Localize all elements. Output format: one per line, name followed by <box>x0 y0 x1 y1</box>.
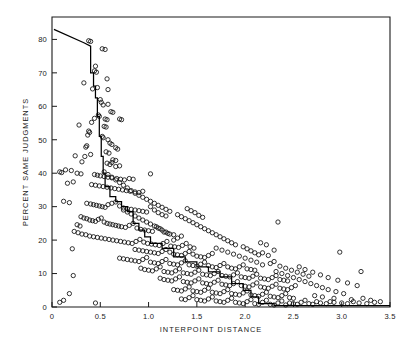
data-point <box>80 160 84 164</box>
x-tick-label: 1.5 <box>191 312 202 321</box>
data-point <box>197 277 201 281</box>
data-point <box>83 154 87 158</box>
data-point <box>268 261 272 265</box>
data-point <box>276 220 280 224</box>
data-point <box>243 256 247 260</box>
data-point <box>280 299 284 303</box>
data-point <box>235 271 239 275</box>
data-point <box>100 205 104 209</box>
x-tick-label: 3.0 <box>336 312 347 321</box>
data-point <box>206 286 210 290</box>
data-point <box>342 291 346 295</box>
data-point <box>255 260 259 264</box>
data-point <box>95 173 99 177</box>
data-point <box>187 249 191 253</box>
data-point <box>116 224 120 228</box>
data-point <box>249 258 253 262</box>
data-point <box>69 168 73 172</box>
x-tick-label: 0.5 <box>95 312 106 321</box>
data-point <box>138 237 142 241</box>
data-point <box>303 267 307 271</box>
data-point <box>177 275 181 279</box>
data-points <box>58 39 383 308</box>
data-point <box>264 243 268 247</box>
data-point <box>88 152 92 156</box>
data-point <box>264 298 268 302</box>
data-point <box>245 289 249 293</box>
data-point <box>216 278 220 282</box>
data-point <box>106 102 110 106</box>
data-point <box>179 234 183 238</box>
data-point <box>105 77 109 81</box>
data-point <box>311 270 315 274</box>
y-axis-title: PERCENT SAME JUDGMENTS <box>21 98 30 226</box>
data-point <box>258 241 262 245</box>
data-point <box>175 213 179 217</box>
data-point <box>63 168 67 172</box>
data-point <box>284 291 288 295</box>
x-tick-label: 1.0 <box>143 312 154 321</box>
data-point <box>355 283 359 287</box>
x-axis-title: INTERPOINT DISTANCE <box>160 325 263 334</box>
data-point <box>255 281 259 285</box>
data-point <box>84 145 88 149</box>
y-tick-label: 60 <box>38 102 47 111</box>
data-point <box>111 158 115 162</box>
data-point <box>201 215 205 219</box>
data-point <box>320 295 324 299</box>
data-point <box>293 283 297 287</box>
data-point <box>106 172 110 176</box>
y-tick-label: 70 <box>38 69 47 78</box>
data-point <box>369 298 373 302</box>
data-point <box>338 250 342 254</box>
data-point <box>89 120 93 124</box>
data-point <box>148 205 152 209</box>
data-point <box>184 241 188 245</box>
data-point <box>289 268 293 272</box>
data-point <box>237 254 241 258</box>
x-tick-label: 3.5 <box>384 312 395 321</box>
data-point <box>67 291 71 295</box>
data-point <box>357 301 361 305</box>
data-point <box>226 250 230 254</box>
data-point <box>320 285 324 289</box>
data-point <box>77 123 81 127</box>
data-point <box>100 47 104 51</box>
data-point <box>92 116 96 120</box>
data-point <box>177 267 181 271</box>
y-axis-ticks: 01020304050607080 <box>38 35 57 312</box>
data-point <box>148 172 152 176</box>
data-point <box>94 203 98 207</box>
data-point <box>165 239 169 243</box>
data-point <box>257 253 261 257</box>
data-point <box>359 269 363 273</box>
x-axis-ticks: 00.51.01.52.02.53.03.5 <box>50 302 396 321</box>
data-point <box>125 186 129 190</box>
data-point <box>274 282 278 286</box>
data-point <box>103 47 107 51</box>
data-point <box>231 252 235 256</box>
data-point <box>191 293 195 297</box>
data-point <box>93 301 97 305</box>
data-point <box>108 222 112 226</box>
data-point <box>164 214 168 218</box>
data-point <box>241 245 245 249</box>
data-point <box>214 246 218 250</box>
data-point <box>158 265 162 269</box>
data-point <box>301 272 305 276</box>
data-point <box>114 178 118 182</box>
data-point <box>334 289 338 293</box>
data-point <box>121 183 125 187</box>
data-point <box>291 275 295 279</box>
data-point <box>61 199 65 203</box>
data-point <box>185 207 189 211</box>
data-point <box>229 296 233 300</box>
data-point <box>92 172 96 176</box>
data-point <box>285 273 289 277</box>
data-point <box>303 298 307 302</box>
data-point <box>97 204 101 208</box>
data-point <box>313 293 317 297</box>
data-point <box>67 200 71 204</box>
data-point <box>297 265 301 269</box>
data-point <box>336 278 340 282</box>
